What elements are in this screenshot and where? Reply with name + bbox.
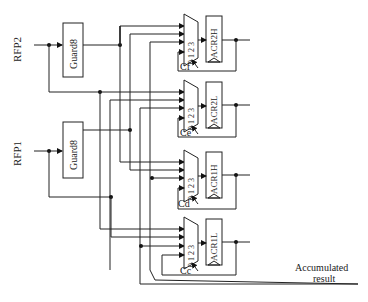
- rfp1-label: RFP1: [11, 141, 23, 166]
- svg-text:ACR2H: ACR2H: [209, 28, 219, 58]
- rfp2-label: RFP2: [11, 37, 23, 62]
- svg-text:0 1 2 3: 0 1 2 3: [187, 178, 196, 200]
- result-label: result: [313, 273, 335, 284]
- svg-text:Cd: Cd: [178, 198, 190, 209]
- svg-text:ACR2L: ACR2L: [209, 95, 219, 124]
- svg-text:ACR1H: ACR1H: [209, 164, 219, 194]
- diagram-canvas: RFP2 RFP1 Guard8 Guard8: [0, 0, 368, 302]
- svg-text:Cc: Cc: [180, 265, 192, 276]
- accumulated-label: Accumulated: [295, 262, 348, 273]
- svg-text:Cf: Cf: [180, 61, 191, 72]
- guard8-bottom: Guard8: [63, 122, 83, 178]
- block-acr2l: 0 1 2 3 ACR2L Ce: [178, 80, 250, 138]
- guard8-top: Guard8: [63, 23, 83, 77]
- block-acr1h: 0 1 2 3 ACR1H Cd: [178, 150, 250, 209]
- block-acr2h: 0 1 2 3 ACR2H Cf: [178, 14, 250, 72]
- svg-text:ACR1L: ACR1L: [209, 232, 219, 261]
- svg-text:Guard8: Guard8: [68, 140, 79, 170]
- svg-text:0 1 2 3: 0 1 2 3: [187, 245, 196, 267]
- svg-text:Guard8: Guard8: [68, 39, 79, 69]
- svg-text:Ce: Ce: [180, 127, 192, 138]
